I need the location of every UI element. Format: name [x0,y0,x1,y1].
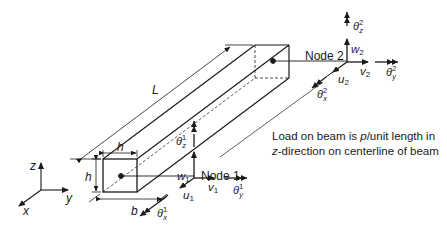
u2-arrow-icon [333,62,347,72]
label-h-top: h [117,140,124,154]
node1-labels: Node 1 w1 v1 u1 θ1z θ1y θ1x [157,133,244,222]
beam-element-diagram: L h h b z y x [0,0,447,231]
theta-z2-label: θ2z [353,18,363,35]
dimension-h-side: h [85,159,101,192]
dimension-L: L [70,45,253,159]
axis-label-x: x [22,204,30,218]
theta-x2-label: θ2x [317,86,327,103]
label-h-side: h [85,170,92,184]
w2-label: w2 [351,43,364,57]
node2-labels: Node 2 w2 v2 u2 θ2z θ2y θ2x [305,18,397,103]
dimension-b: b [89,194,167,218]
beam-body [103,45,289,192]
axis-label-z: z [29,159,36,173]
label-b: b [131,204,138,218]
theta-y1-label: θ1y [233,182,244,199]
theta-x1-label: θ1x [157,205,167,222]
load-note-line2: z-direction on centerline of beam [272,144,439,159]
u2-label: u2 [338,73,349,87]
global-axes: z y x [19,159,73,218]
label-L: L [152,83,159,97]
load-note-line1: Load on beam is p/unit length in [272,129,439,144]
load-note: Load on beam is p/unit length in z-direc… [272,129,439,159]
theta-z1-label: θ1z [176,133,186,150]
node2-label: Node 2 [305,49,344,63]
w1-label: w1 [177,170,190,184]
theta-y2-label: θ2y [386,64,397,81]
v1-label: v1 [208,181,219,195]
v2-label: v2 [360,65,371,79]
node1-label: Node 1 [201,169,240,183]
u1-label: u1 [183,189,194,203]
centerline [119,59,347,179]
axis-label-y: y [65,191,73,205]
